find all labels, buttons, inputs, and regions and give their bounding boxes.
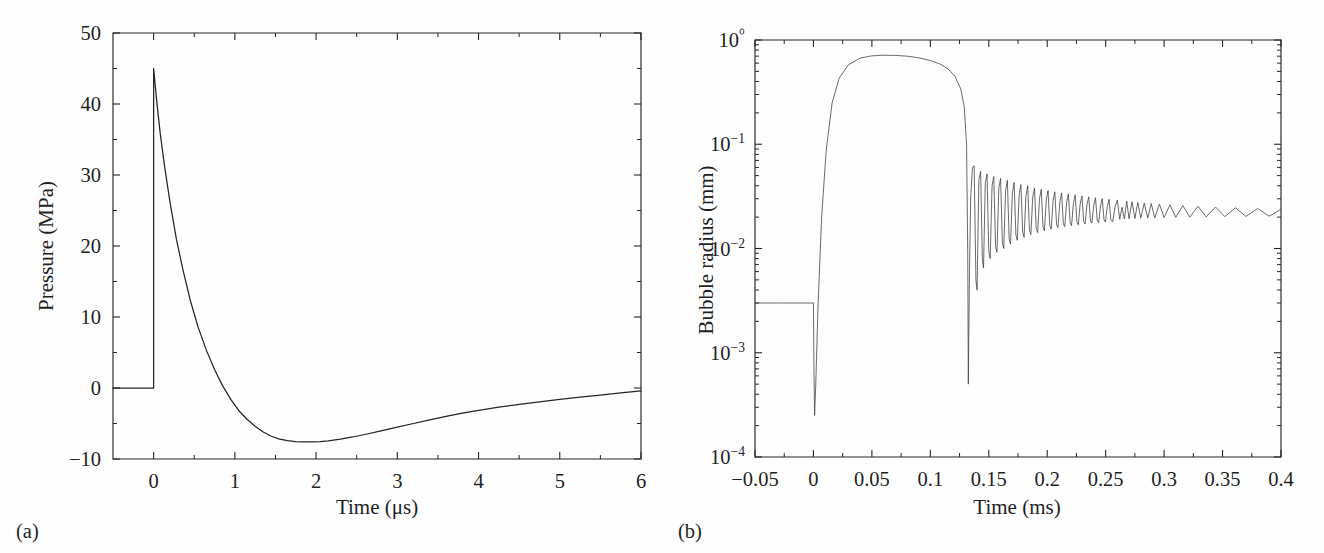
panel-b-x-tick-label: 0.2 [1034,469,1060,490]
panel-b-x-tick-label: 0.4 [1268,469,1294,490]
panel-a-y-tick-label: 50 [0,23,101,44]
panel-b-x-tick-label: 0.15 [971,469,1007,490]
panel-a-x-tick-label: 0 [148,471,158,492]
panel-a-x-tick-label: 1 [230,471,240,492]
panel-b-x-tick-label: 0.35 [1205,469,1241,490]
panel-b-y-tick-label: 10−1 [662,134,745,155]
panel-a-y-tick-label: 0 [0,378,101,399]
panel-a-x-tick-label: 3 [392,471,402,492]
panel-b-y-tick-label: 10−4 [662,447,745,468]
panel-a-frame [113,33,641,459]
panel-a-x-tick-label: 6 [636,471,646,492]
panel-a-axes [113,33,641,459]
panel-b-bubble-radius-plot: −0.0500.050.10.150.20.250.30.350.4 10−41… [662,0,1324,553]
panel-b-axes [755,40,1281,457]
panel-b-y-tick-label: 10−3 [662,343,745,364]
panel-a-y-tick-label: 40 [0,94,101,115]
panel-b-ticks [755,40,1281,457]
figure-container: 0123456 −1001020304050 Time (μs) Pressur… [0,0,1324,553]
panel-a-x-axis-title: Time (μs) [336,497,418,518]
panel-b-x-tick-label: 0 [808,469,818,490]
panel-b-x-tick-label: 0.3 [1151,469,1177,490]
panel-b-x-tick-label: 0.25 [1088,469,1124,490]
panel-a-y-axis-title: Pressure (MPa) [36,181,57,311]
bubble-radius-curve [755,55,1281,415]
panel-b-frame [755,40,1281,457]
panel-b-x-tick-label: 0.05 [854,469,890,490]
panel-b-label: (b) [678,521,702,542]
panel-a-x-tick-label: 5 [555,471,565,492]
panel-b-x-tick-label: −0.05 [731,469,778,490]
panel-a-y-tick-label: −10 [0,449,101,470]
panel-a-ticks [113,33,641,459]
panel-a-pressure-plot: 0123456 −1001020304050 Time (μs) Pressur… [0,0,662,553]
panel-b-y-tick-label: 10⁰ [662,30,745,51]
pressure-waveform-curve [113,69,641,442]
panel-a-x-tick-label: 2 [311,471,321,492]
panel-a-label: (a) [16,521,39,542]
panel-b-x-tick-label: 0.1 [918,469,944,490]
panel-b-y-axis-title: Bubble radius (mm) [696,165,717,334]
panel-b-x-axis-title: Time (ms) [973,497,1060,518]
panel-a-x-tick-label: 4 [473,471,483,492]
